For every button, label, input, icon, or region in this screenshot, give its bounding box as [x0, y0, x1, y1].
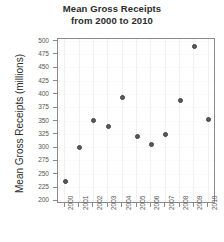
x-axis-tick — [207, 203, 208, 207]
gridline-vertical — [79, 39, 80, 202]
x-axis-tick — [121, 203, 122, 207]
y-axis-tick — [53, 200, 57, 201]
gridline-vertical — [150, 39, 151, 202]
y-axis-tick-label: 375 — [25, 103, 49, 110]
y-axis-tick-label: 400 — [25, 90, 49, 97]
x-axis-tick-label: 2007 — [168, 196, 175, 210]
x-axis-tick — [78, 203, 79, 207]
y-axis-tick — [53, 107, 57, 108]
x-axis-tick — [107, 203, 108, 207]
x-axis-tick — [136, 203, 137, 207]
gridline-vertical — [64, 39, 65, 202]
y-axis-tick — [53, 147, 57, 148]
y-axis-tick-label: 300 — [25, 143, 49, 150]
y-axis-tick-label: 475 — [25, 50, 49, 57]
x-axis-tick — [92, 203, 93, 207]
x-axis-tick-label: 2000 — [67, 196, 74, 210]
gridline-vertical — [193, 39, 194, 202]
y-axis-tick — [53, 67, 57, 68]
x-axis-tick-label: 2009 — [196, 196, 203, 210]
x-axis-tick-label: 2010 — [211, 196, 218, 210]
y-axis-tick-label: 275 — [25, 156, 49, 163]
data-point — [149, 142, 154, 147]
y-axis-tick — [53, 133, 57, 134]
y-axis-tick — [53, 93, 57, 94]
gridline-vertical — [107, 39, 108, 202]
y-axis-tick — [53, 173, 57, 174]
gridline-vertical — [165, 39, 166, 202]
chart-title: Mean Gross Receipts from 2000 to 2010 — [0, 3, 224, 27]
x-axis-tick — [193, 203, 194, 207]
chart-title-line-2: from 2000 to 2010 — [0, 15, 224, 27]
data-point — [77, 145, 82, 150]
data-point — [63, 179, 68, 184]
y-axis-tick — [53, 53, 57, 54]
scatter-chart: Mean Gross Receipts from 2000 to 2010 Me… — [0, 0, 224, 242]
x-axis-tick-label: 2002 — [96, 196, 103, 210]
y-axis-tick-label: 500 — [25, 37, 49, 44]
chart-title-line-1: Mean Gross Receipts — [0, 3, 224, 15]
data-point — [178, 98, 183, 103]
x-axis-tick-label: 2001 — [82, 196, 89, 210]
data-point — [163, 132, 168, 137]
y-axis-tick-label: 325 — [25, 130, 49, 137]
data-point — [192, 44, 197, 49]
y-axis-tick-label: 250 — [25, 170, 49, 177]
gridline-vertical — [179, 39, 180, 202]
y-axis-tick-label: 200 — [25, 196, 49, 203]
data-point — [106, 124, 111, 129]
data-point — [91, 118, 96, 123]
data-point — [135, 134, 140, 139]
y-axis-title: Mean Gross Receipts (millions) — [14, 39, 25, 209]
x-axis-tick-label: 2006 — [153, 196, 160, 210]
x-axis-tick-label: 2008 — [182, 196, 189, 210]
x-axis-tick — [179, 203, 180, 207]
gridline-vertical — [122, 39, 123, 202]
data-point — [206, 117, 211, 122]
x-axis-tick-label: 2004 — [125, 196, 132, 210]
y-axis-tick — [53, 160, 57, 161]
data-point — [120, 95, 125, 100]
y-axis-tick — [53, 120, 57, 121]
y-axis-tick — [53, 40, 57, 41]
y-axis-tick-label: 225 — [25, 183, 49, 190]
y-axis-tick-label: 350 — [25, 117, 49, 124]
x-axis-tick — [150, 203, 151, 207]
x-axis-tick — [64, 203, 65, 207]
y-axis-tick-label: 450 — [25, 63, 49, 70]
x-axis-tick-label: 2005 — [139, 196, 146, 210]
gridline-vertical — [136, 39, 137, 202]
y-axis-tick — [53, 187, 57, 188]
x-axis-tick — [164, 203, 165, 207]
plot-area — [57, 38, 215, 203]
x-axis-tick-label: 2003 — [110, 196, 117, 210]
y-axis-tick — [53, 80, 57, 81]
y-axis-tick-label: 425 — [25, 77, 49, 84]
